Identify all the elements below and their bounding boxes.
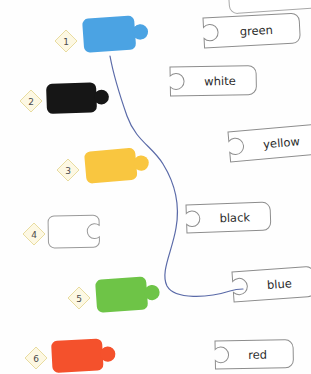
piece-6-number: 6	[33, 354, 39, 364]
puzzle-piece-1-blue[interactable]: 1	[55, 14, 149, 52]
puzzle-piece-4-white[interactable]: 4	[23, 215, 100, 248]
piece-1-badge: 1	[55, 30, 77, 52]
piece-1-number: 1	[63, 37, 69, 47]
puzzle-piece-3-yellow[interactable]: 3	[57, 146, 150, 183]
piece-4-badge: 4	[23, 223, 45, 245]
piece-4-body	[48, 215, 100, 248]
tag-white-label: white	[204, 74, 236, 89]
color-tag-green[interactable]: green	[203, 13, 300, 48]
tag-blue-label: blue	[267, 276, 293, 292]
color-tag-white[interactable]: white	[170, 65, 256, 95]
color-tag-black[interactable]: black	[186, 202, 271, 233]
color-tag-red[interactable]: red	[215, 340, 293, 369]
piece-5-number: 5	[76, 294, 82, 304]
piece-5-badge: 5	[68, 287, 90, 309]
tag-red-label: red	[248, 348, 267, 362]
puzzle-piece-5-green[interactable]: 5	[68, 276, 161, 313]
piece-3-number: 3	[65, 166, 71, 176]
partial-tag-top	[228, 0, 311, 14]
puzzle-piece-2-black[interactable]: 2	[20, 82, 109, 114]
tag-green-label: green	[239, 23, 273, 39]
worksheet-svg: 1 2 3	[0, 0, 311, 374]
piece-6-badge: 6	[25, 347, 47, 369]
worksheet-canvas: 1 2 3	[0, 0, 311, 374]
color-tag-yellow[interactable]: yellow	[228, 124, 311, 162]
piece-3-badge: 3	[57, 159, 79, 181]
puzzle-piece-6-red[interactable]: 6	[25, 338, 116, 373]
piece-2-number: 2	[28, 97, 34, 107]
piece-2-badge: 2	[20, 90, 42, 112]
tag-black-label: black	[219, 210, 250, 225]
color-tag-blue[interactable]: blue	[232, 266, 311, 302]
piece-4-number: 4	[31, 230, 37, 240]
